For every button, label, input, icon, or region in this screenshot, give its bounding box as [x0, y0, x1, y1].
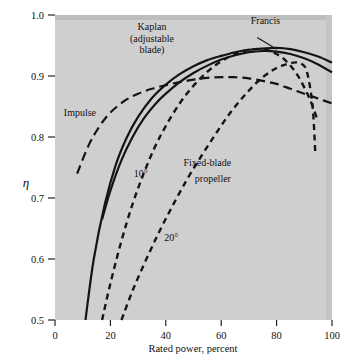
label-fixed-blade-propeller-10-degrees: 10°: [134, 168, 148, 179]
label-kaplan-adjustable-blade-line2: blade): [139, 44, 164, 56]
x-tick-label: 40: [161, 330, 172, 341]
x-tick-label: 100: [324, 330, 340, 341]
y-axis-ticks: [48, 15, 55, 320]
y-tick-label: 0.8: [31, 132, 44, 143]
x-tick-label: 80: [271, 330, 282, 341]
x-axis-tick-labels: 020406080100: [52, 330, 340, 341]
label-fixed-blade-propeller-20-degrees: 20°: [164, 232, 178, 243]
annotation-0: Fixed-blade: [183, 157, 231, 168]
y-tick-label: 1.0: [31, 10, 44, 21]
chart-figure: 0.50.60.70.80.91.0 020406080100 ImpulseK…: [0, 0, 352, 363]
y-axis-title: η: [23, 175, 29, 190]
y-tick-label: 0.5: [31, 315, 44, 326]
annotation-1: propeller: [195, 173, 232, 184]
label-kaplan-adjustable-blade-line1: (adjustable: [130, 33, 174, 45]
turbine-efficiency-chart: 0.50.60.70.80.91.0 020406080100 ImpulseK…: [0, 0, 352, 363]
label-impulse: Impulse: [64, 107, 97, 118]
label-kaplan-adjustable-blade-line0: Kaplan: [138, 21, 167, 32]
x-tick-label: 20: [105, 330, 116, 341]
x-tick-label: 0: [52, 330, 57, 341]
x-axis-title: Rated power, percent: [148, 343, 237, 354]
y-axis-tick-labels: 0.50.60.70.80.91.0: [31, 10, 44, 326]
y-tick-label: 0.7: [31, 193, 44, 204]
y-tick-label: 0.6: [31, 254, 44, 265]
plot-panel-shade: [55, 15, 332, 20]
x-axis-ticks: [55, 320, 332, 326]
x-tick-label: 60: [216, 330, 227, 341]
label-francis: Francis: [251, 15, 281, 26]
y-tick-label: 0.9: [31, 71, 44, 82]
